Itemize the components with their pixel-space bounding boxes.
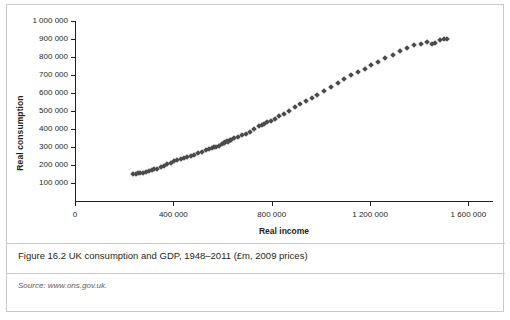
- y-axis-title: Real consumption: [13, 75, 27, 195]
- scatter-point: [287, 108, 293, 114]
- x-tick-mark: [468, 202, 469, 206]
- figure-caption: Figure 16.2 UK consumption and GDP, 1948…: [18, 250, 308, 261]
- x-tick-mark: [173, 202, 174, 206]
- figure-page: Real consumption 100 000200 000300 00040…: [0, 0, 510, 320]
- y-tick-label: 500 000: [39, 106, 68, 115]
- y-axis-title-text: Real consumption: [15, 73, 25, 193]
- x-axis-line: [75, 201, 493, 202]
- y-tick-label: 300 000: [39, 142, 68, 151]
- x-tick-label: 0: [35, 210, 115, 219]
- y-tick-label: 700 000: [39, 70, 68, 79]
- y-tick-label: 100 000: [39, 178, 68, 187]
- y-tick-label: 600 000: [39, 88, 68, 97]
- scatter-point: [444, 36, 450, 42]
- scatter-point: [292, 105, 298, 111]
- scatter-point: [342, 76, 348, 82]
- scatter-point: [405, 45, 411, 51]
- x-tick-label: 1 600 000: [428, 210, 508, 219]
- y-tick-label: 900 000: [39, 34, 68, 43]
- x-tick-label: 1 200 000: [330, 210, 410, 219]
- y-axis-line: [75, 21, 76, 201]
- scatter-point: [390, 52, 396, 58]
- y-tick-label: 800 000: [39, 52, 68, 61]
- y-tick-label: 200 000: [39, 160, 68, 169]
- scatter-point: [297, 101, 303, 107]
- y-tick-label: 1 000 000: [32, 16, 68, 25]
- scatter-point: [382, 55, 388, 61]
- scatter-point: [303, 98, 309, 104]
- figure-source: Source: www.ons.gov.uk.: [18, 281, 107, 290]
- scatter-point: [355, 69, 361, 75]
- scatter-point: [328, 84, 334, 90]
- scatter-point: [368, 62, 374, 68]
- caption-divider: [7, 243, 505, 244]
- source-url: www.ons.gov.uk.: [46, 281, 108, 290]
- source-divider: [7, 273, 505, 274]
- figure-container: Real consumption 100 000200 000300 00040…: [6, 4, 504, 312]
- scatter-point: [309, 95, 315, 101]
- scatter-point: [362, 66, 368, 72]
- scatter-point: [349, 73, 355, 79]
- scatter-point: [375, 59, 381, 65]
- scatter-point: [335, 80, 341, 86]
- x-tick-mark: [272, 202, 273, 206]
- x-tick-mark: [75, 202, 76, 206]
- x-axis-title: Real income: [75, 226, 493, 236]
- scatter-point: [397, 48, 403, 54]
- scatter-point: [315, 92, 321, 98]
- plot-area: Real consumption 100 000200 000300 00040…: [7, 5, 505, 243]
- x-tick-label: 800 000: [232, 210, 312, 219]
- scatter-point: [411, 42, 417, 48]
- x-tick-label: 400 000: [133, 210, 213, 219]
- source-label: Source:: [18, 281, 46, 290]
- y-tick-label: 400 000: [39, 124, 68, 133]
- x-tick-mark: [370, 202, 371, 206]
- scatter-point: [321, 88, 327, 94]
